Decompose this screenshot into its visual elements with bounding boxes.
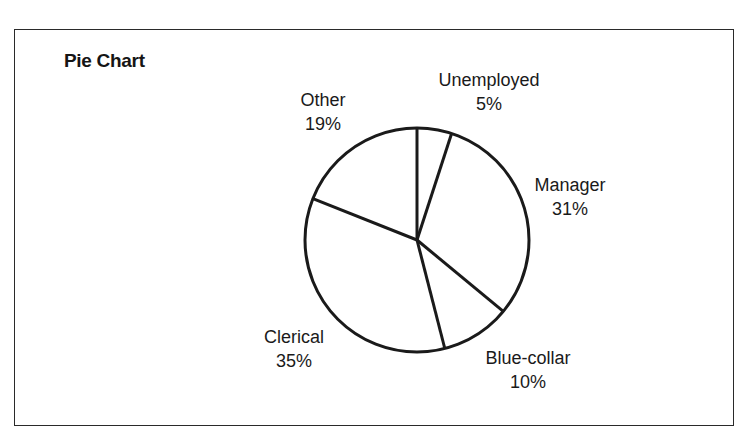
slice-label-percent: 19% [300,112,345,136]
slice-label-name: Unemployed [438,68,539,92]
slice-label-blue-collar: Blue-collar 10% [485,346,570,394]
slice-label-percent: 10% [485,370,570,394]
slice-label-clerical: Clerical 35% [264,325,324,373]
slice-label-other: Other 19% [300,88,345,136]
slice-label-unemployed: Unemployed 5% [438,68,539,116]
slice-label-name: Other [300,88,345,112]
pie-chart [0,0,748,437]
slice-label-percent: 5% [438,92,539,116]
slice-label-name: Manager [534,173,605,197]
slice-label-name: Clerical [264,325,324,349]
slice-label-percent: 31% [534,197,605,221]
slice-label-name: Blue-collar [485,346,570,370]
slice-label-manager: Manager 31% [534,173,605,221]
slice-label-percent: 35% [264,349,324,373]
